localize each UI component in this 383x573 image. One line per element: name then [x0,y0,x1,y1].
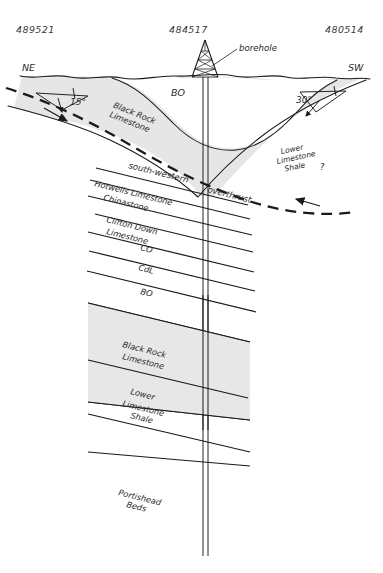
syncline-core-label: BO [171,87,186,98]
black-rock-limestone-shaded-band [88,303,250,420]
grid-reference-center: 484517 [169,24,208,35]
thrust-transport-arrow-right [296,199,320,206]
log-unit-clifton-down-limestone: Clifton Down Limestone [106,214,159,246]
compass-label-sw: SW [348,62,364,73]
grid-reference-left: 489521 [16,24,55,35]
log-unit-cdl: CdL [138,262,156,276]
footwall-unit-label: Lower Limestone Shale [274,140,319,175]
log-unit-bo: BO [140,286,155,299]
log-unit-label: CO [140,242,155,255]
geological-cross-section-figure: 15° 30° [0,0,383,573]
log-unit-portishead-beds: Portishead Beds [118,487,163,514]
footwall-query-mark: ? [320,162,325,172]
dip-angle-left-label: 15° [70,97,86,107]
borehole-callout-label: borehole [239,43,277,53]
log-unit-co: CO [140,242,155,255]
grid-reference-right: 480514 [325,24,364,35]
dip-angle-right-label: 30° [296,95,312,105]
overthrust-label-line2: overthrust [207,184,254,205]
log-unit-label: BO [140,286,155,299]
borehole-leader-line [212,49,237,66]
log-unit-label: CdL [138,262,156,276]
borehole-derrick [192,40,218,77]
compass-label-ne: NE [22,62,35,73]
